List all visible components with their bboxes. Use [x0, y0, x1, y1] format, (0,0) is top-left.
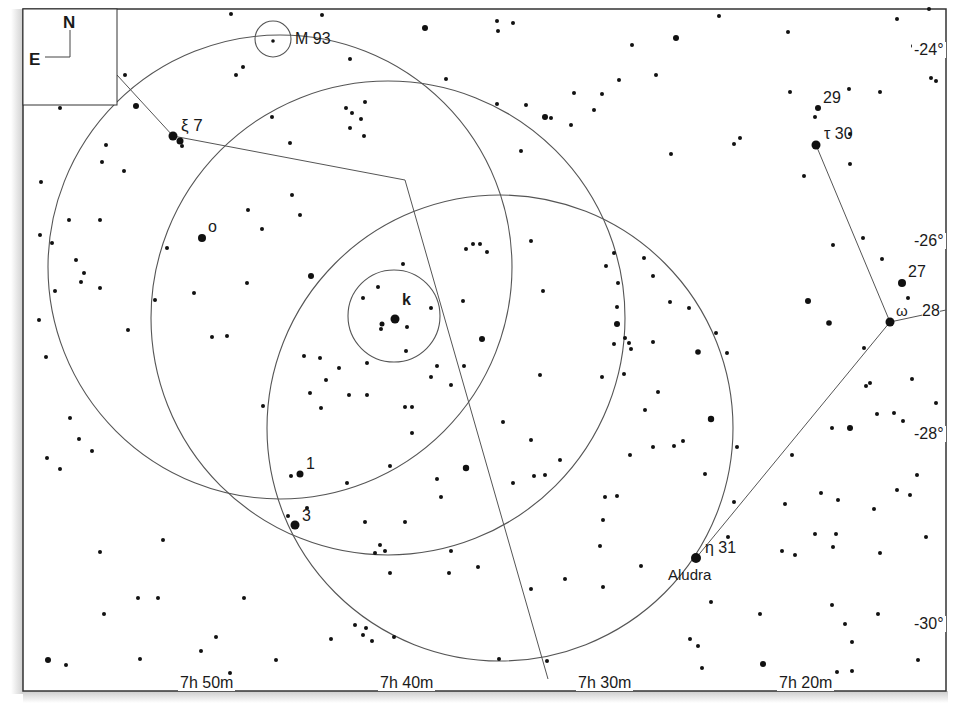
label-1: 1: [306, 456, 315, 472]
label-tau-30: τ 30: [824, 126, 853, 142]
ra-label-7h50m: 7h 50m: [178, 675, 235, 691]
dec-label-minus-26: -26°: [912, 233, 946, 249]
label-aludra: Aludra: [668, 567, 711, 582]
label-xi-7: ξ 7: [181, 117, 203, 134]
label-m93: M 93: [295, 31, 331, 47]
label-3: 3: [302, 508, 311, 524]
compass-north-label: N: [63, 14, 75, 31]
dec-label-minus-30: -30°: [912, 616, 946, 632]
star-chart: [0, 0, 966, 707]
label-29: 29: [823, 90, 841, 106]
compass-east-label: E: [29, 51, 40, 68]
label-27: 27: [908, 264, 926, 280]
ra-label-7h30m: 7h 30m: [576, 675, 633, 691]
dec-label-minus-28: -28°: [912, 426, 946, 442]
label-eta-31: η 31: [705, 540, 736, 556]
ra-label-7h20m: 7h 20m: [777, 675, 834, 691]
label-omega: ω: [896, 303, 908, 318]
label-k: k: [402, 292, 411, 308]
ra-label-7h40m: 7h 40m: [378, 675, 435, 691]
label-28: 28: [922, 303, 940, 319]
dec-label-minus-24: -24°: [912, 42, 946, 58]
label-omicron: o: [208, 219, 217, 235]
